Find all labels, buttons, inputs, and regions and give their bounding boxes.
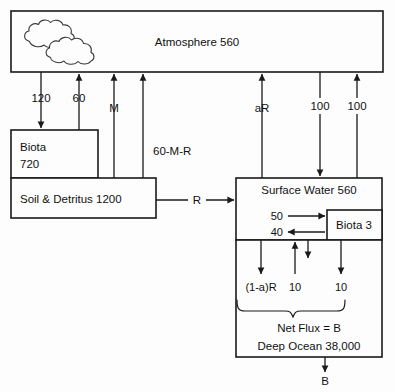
flow-downwelling-label: (1-a)R xyxy=(245,281,276,293)
flow-respiration-label: 60 xyxy=(73,92,86,104)
flow-biota-return-label: 40 xyxy=(271,226,283,238)
flow-river-runoff-label: R xyxy=(193,194,201,206)
biota-land-label-line1: Biota xyxy=(20,141,47,153)
flow-upwelling-label: 10 xyxy=(289,281,301,293)
flow-photosynthesis-label: 120 xyxy=(31,92,50,104)
biota-land-label-line2: 720 xyxy=(20,158,39,170)
carbon-cycle-canvas: Atmosphere 560 Biota 720 Soil & Detritus… xyxy=(0,0,395,392)
flow-net-outflow-label: B xyxy=(321,375,329,387)
atmosphere-label: Atmosphere 560 xyxy=(155,36,239,48)
flow-air-sea-uptake-label: aR xyxy=(255,102,270,114)
flow-soil-respiration-label: 60-M-R xyxy=(153,145,191,157)
deep-ocean-label: Deep Ocean 38,000 xyxy=(258,340,361,352)
soil-detritus-label: Soil & Detritus 1200 xyxy=(20,193,122,205)
flow-anthropogenic-label: M xyxy=(109,102,119,114)
flow-ocean-outgas-label: 100 xyxy=(310,100,329,112)
biota-land-box xyxy=(11,130,98,178)
surface-water-label: Surface Water 560 xyxy=(261,184,356,196)
flow-sinking-label: 10 xyxy=(335,281,347,293)
flow-ocean-uptake-label: 100 xyxy=(347,100,366,112)
biota-ocean-label: Biota 3 xyxy=(336,219,372,231)
flow-biota-uptake-label: 50 xyxy=(271,210,283,222)
net-flux-label: Net Flux = B xyxy=(277,322,341,334)
carbon-cycle-diagram: Atmosphere 560 Biota 720 Soil & Detritus… xyxy=(0,0,395,392)
